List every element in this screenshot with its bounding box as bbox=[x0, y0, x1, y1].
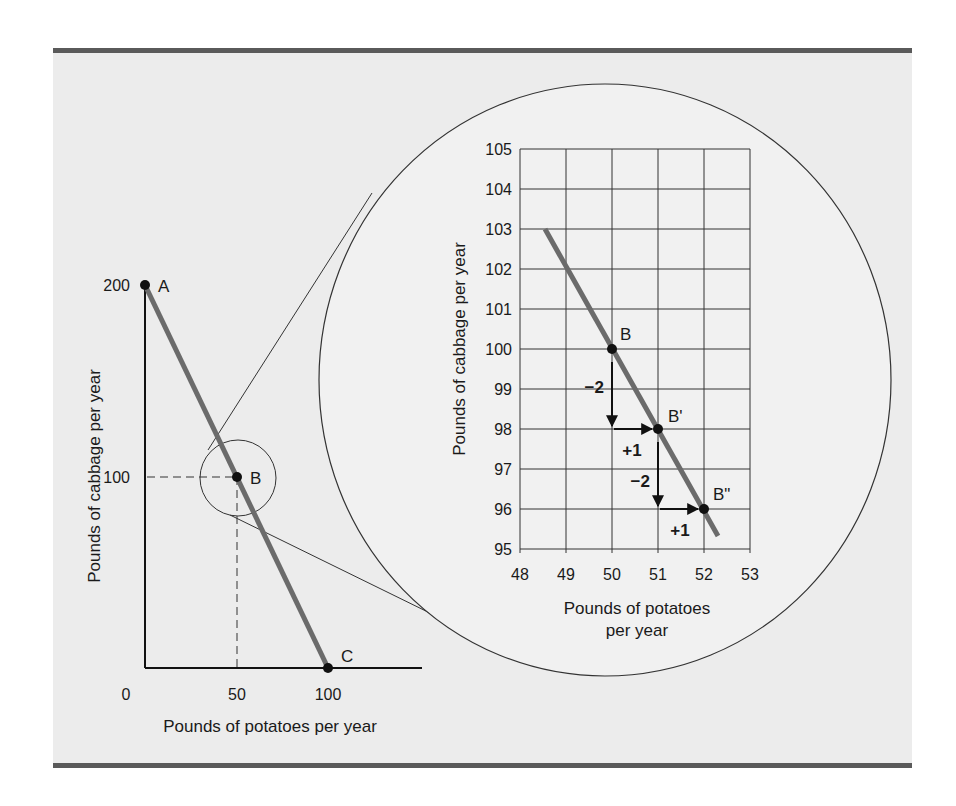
inset-y-tick: 98 bbox=[494, 421, 512, 438]
inset-y-tick: 103 bbox=[485, 221, 512, 238]
top-rule bbox=[53, 48, 912, 53]
delta-plus-1-first: +1 bbox=[622, 441, 641, 460]
magnifier-circle bbox=[319, 84, 891, 676]
inset-y-tick: 96 bbox=[494, 501, 512, 518]
y-tick-100: 100 bbox=[103, 469, 130, 486]
inset-label-b-prime: B' bbox=[668, 407, 683, 426]
label-a: A bbox=[158, 277, 170, 296]
y-tick-200: 200 bbox=[103, 277, 130, 294]
point-a bbox=[140, 280, 150, 290]
bottom-rule bbox=[53, 763, 912, 768]
inset-y-tick: 95 bbox=[494, 541, 512, 558]
delta-plus-1-second: +1 bbox=[670, 521, 689, 540]
inset-y-tick: 99 bbox=[494, 381, 512, 398]
ppf-figure: A B C 200 100 0 50 100 Pounds of cabbage… bbox=[0, 0, 956, 806]
delta-minus-2-first: −2 bbox=[585, 378, 604, 397]
inset-point-b-double-prime bbox=[699, 504, 709, 514]
inset-x-tick: 52 bbox=[695, 566, 713, 583]
inset-x-tick: 50 bbox=[603, 566, 621, 583]
inset-y-tick: 105 bbox=[485, 141, 512, 158]
left-y-axis-title: Pounds of cabbage per year bbox=[85, 369, 104, 583]
inset-x-tick: 49 bbox=[557, 566, 575, 583]
x-tick-50: 50 bbox=[228, 686, 246, 703]
point-c bbox=[323, 663, 333, 673]
inset-point-b bbox=[607, 344, 617, 354]
x-tick-0: 0 bbox=[122, 686, 131, 703]
label-c: C bbox=[341, 647, 353, 666]
inset-y-tick: 97 bbox=[494, 461, 512, 478]
inset-x-tick: 53 bbox=[741, 566, 759, 583]
inset-y-tick: 104 bbox=[485, 181, 512, 198]
inset-point-b-prime bbox=[653, 424, 663, 434]
inset-label-b-double-prime: B" bbox=[713, 485, 730, 504]
inset-x-tick: 48 bbox=[511, 566, 529, 583]
x-tick-100: 100 bbox=[315, 686, 342, 703]
label-b: B bbox=[250, 469, 261, 488]
inset-label-b: B bbox=[620, 325, 631, 344]
inset-x-axis-title-line2: per year bbox=[606, 621, 669, 640]
inset-y-tick: 102 bbox=[485, 261, 512, 278]
inset-y-tick: 101 bbox=[485, 301, 512, 318]
inset-x-axis-title-line1: Pounds of potatoes bbox=[564, 599, 711, 618]
inset-y-axis-title: Pounds of cabbage per year bbox=[450, 242, 469, 456]
point-b bbox=[232, 472, 242, 482]
inset-x-tick: 51 bbox=[649, 566, 667, 583]
delta-minus-2-second: −2 bbox=[631, 472, 650, 491]
inset-y-tick: 100 bbox=[485, 341, 512, 358]
left-x-axis-title: Pounds of potatoes per year bbox=[163, 717, 377, 736]
